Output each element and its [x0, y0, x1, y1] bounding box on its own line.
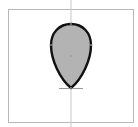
top-anchor-point[interactable] [70, 23, 72, 25]
drawing-canvas[interactable] [0, 0, 138, 127]
right-anchor-point[interactable] [90, 44, 92, 46]
left-anchor-point[interactable] [50, 44, 52, 46]
bottom-anchor-point[interactable] [70, 87, 72, 89]
center-point [71, 56, 72, 57]
